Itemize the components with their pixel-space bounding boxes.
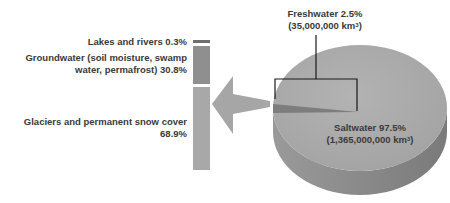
label-saltwater: Saltwater 97.5% (1,365,000,000 km3) — [305, 122, 435, 146]
label-groundwater: Groundwater (soil moisture, swamp water,… — [25, 52, 187, 76]
bar-segment-groundwater — [193, 46, 210, 84]
label-freshwater: Freshwater 2.5% (35,000,000 km3) — [275, 8, 375, 32]
label-glaciers: Glaciers and permanent snow cover 68.9% — [24, 116, 187, 140]
chart-graphic — [0, 0, 450, 203]
bar-segment-lakes — [193, 40, 210, 43]
freshwater-stacked-bar — [193, 40, 210, 170]
label-lakes: Lakes and rivers 0.3% — [88, 36, 187, 48]
bar-segment-glaciers — [193, 87, 210, 170]
arrow-icon — [212, 76, 270, 134]
